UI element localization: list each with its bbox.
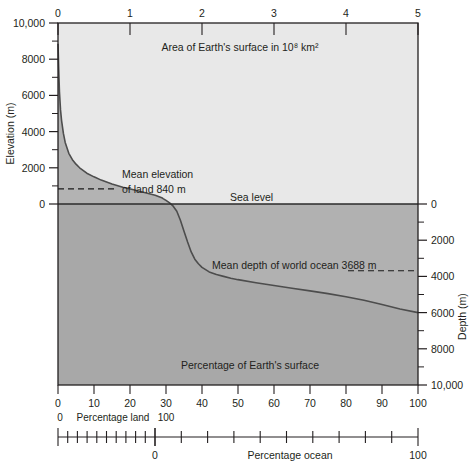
- left-axis-tick-label: 6000: [22, 89, 46, 101]
- top-note-label: Area of Earth's surface in 10⁸ km²: [162, 41, 320, 53]
- bottom-axis-tick-label: 20: [124, 397, 136, 409]
- right-axis-tick-label: 10,000: [431, 379, 463, 391]
- bottom-axis-tick-label: 70: [304, 397, 316, 409]
- hypsometric-curve-figure: 01234510,00080006000400020000Elevation (…: [0, 0, 473, 467]
- top-axis-tick-label: 4: [343, 7, 349, 19]
- ocean-scale-title: Percentage ocean: [247, 449, 332, 461]
- right-axis-tick-label: 8000: [431, 343, 455, 355]
- right-axis-title: Depth (m): [456, 293, 468, 340]
- chart-svg: 01234510,00080006000400020000Elevation (…: [0, 0, 473, 467]
- bottom-axis-tick-label: 60: [268, 397, 280, 409]
- left-axis-tick-label: 8000: [22, 53, 46, 65]
- bottom-axis-tick-label: 30: [160, 397, 172, 409]
- ocean-scale-start-label: 0: [152, 449, 158, 461]
- right-axis-tick-label: 6000: [431, 307, 455, 319]
- bottom-axis-tick-label: 10: [88, 397, 100, 409]
- bottom-axis-tick-label: 90: [376, 397, 388, 409]
- right-axis-tick-label: 2000: [431, 234, 455, 246]
- mean-depth-label: Mean depth of world ocean 3688 m: [212, 259, 377, 271]
- land-scale-end-label: 100: [158, 412, 175, 423]
- left-axis-tick-label: 4000: [22, 126, 46, 138]
- right-axis-tick-label: 0: [431, 198, 437, 210]
- bottom-axis-tick-label: 50: [232, 397, 244, 409]
- left-axis-tick-label: 2000: [22, 162, 46, 174]
- land-scale-start-label: 0: [57, 412, 63, 423]
- ocean-scale-end-label: 100: [409, 449, 427, 461]
- bottom-note-label: Percentage of Earth's surface: [181, 359, 319, 371]
- right-axis-tick-label: 4000: [431, 270, 455, 282]
- top-axis-tick-label: 2: [199, 7, 205, 19]
- top-axis-tick-label: 3: [271, 7, 277, 19]
- sea-level-label: Sea level: [230, 191, 273, 203]
- top-axis-tick-label: 5: [415, 7, 421, 19]
- left-axis-tick-label: 10,000: [13, 17, 45, 29]
- mean-elevation-label-line2: of land 840 m: [122, 183, 186, 195]
- top-axis-tick-label: 0: [55, 7, 61, 19]
- bottom-axis-tick-label: 0: [55, 397, 61, 409]
- bottom-axis-tick-label: 80: [340, 397, 352, 409]
- land-scale-title: Percentage land: [77, 412, 150, 423]
- left-axis-title: Elevation (m): [4, 103, 16, 165]
- top-axis-tick-label: 1: [127, 7, 133, 19]
- bottom-axis-tick-label: 40: [196, 397, 208, 409]
- mean-elevation-label-line1: Mean elevation: [122, 168, 193, 180]
- bottom-axis-tick-label: 100: [409, 397, 427, 409]
- left-axis-tick-label: 0: [39, 198, 45, 210]
